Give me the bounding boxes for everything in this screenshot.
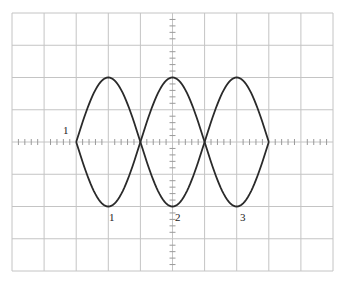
- label-lobe-3: 3: [240, 211, 246, 223]
- label-left-1: 1: [63, 124, 69, 136]
- label-lobe-2: 2: [175, 211, 181, 223]
- oscilloscope-screen: [0, 0, 341, 281]
- label-lobe-1: 1: [109, 211, 115, 223]
